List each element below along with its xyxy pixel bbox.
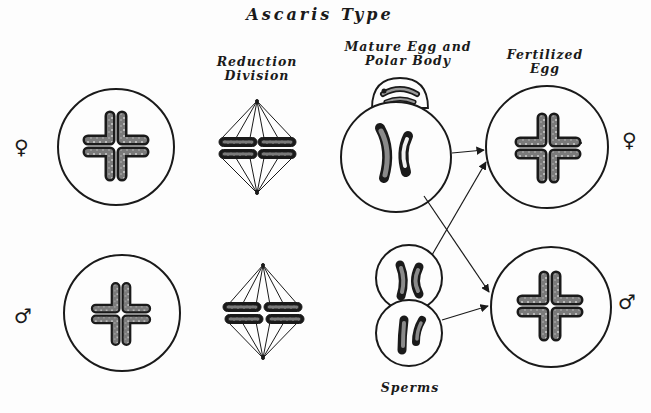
label-mature-egg-line2: Polar Body xyxy=(333,54,483,68)
male-fertilized-egg xyxy=(491,247,611,367)
label-mature-egg-line1: Mature Egg and xyxy=(333,40,483,54)
female-reduction-spindle xyxy=(219,100,296,195)
arrow-sperm-to-male-fertilized xyxy=(442,306,488,320)
male-reduction-spindle xyxy=(223,264,304,360)
label-reduction-division: Reduction Division xyxy=(202,55,312,84)
label-fertilized-egg: Fertilized Egg xyxy=(490,48,600,77)
arrow-egg-to-female-fertilized xyxy=(452,150,484,153)
female-symbol-right: ♀ xyxy=(622,128,637,152)
female-fertilized-egg xyxy=(486,86,608,208)
male-symbol-left: ♂ xyxy=(14,304,32,328)
diagram-title: Ascaris Type xyxy=(220,6,420,24)
female-oocyte xyxy=(58,89,174,205)
sperms xyxy=(376,245,442,366)
male-spermatocyte xyxy=(64,255,180,371)
label-fertilized-line1: Fertilized xyxy=(490,48,600,62)
label-fertilized-line2: Egg xyxy=(490,62,600,76)
label-sperms: Sperms xyxy=(360,381,460,395)
label-mature-egg: Mature Egg and Polar Body xyxy=(333,40,483,69)
label-reduction-line2: Division xyxy=(202,69,312,83)
female-symbol-left: ♀ xyxy=(14,135,29,159)
mature-egg-with-polar-body xyxy=(341,78,451,212)
label-reduction-line1: Reduction xyxy=(202,55,312,69)
male-symbol-right: ♂ xyxy=(618,290,636,314)
